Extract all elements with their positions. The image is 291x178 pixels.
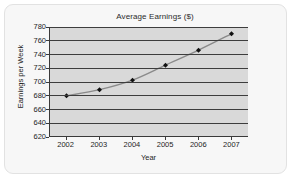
plot-area [49, 27, 248, 137]
data-point-marker [196, 48, 201, 53]
x-axis-tick-labels: 200220032004200520062007 [49, 141, 248, 153]
y-axis-tick-mark [46, 54, 49, 55]
gridline [50, 109, 248, 110]
gridline [50, 123, 248, 124]
y-axis-tick-label: 660 [20, 106, 46, 114]
x-axis-tick-mark [132, 137, 133, 140]
y-axis-tick-mark [46, 68, 49, 69]
y-axis-tick-mark [46, 109, 49, 110]
y-axis-tick-mark [46, 137, 49, 138]
y-axis-tick-label: 780 [20, 23, 46, 31]
gridline [50, 137, 248, 138]
x-axis-tick-mark [198, 137, 199, 140]
x-axis-tick-label: 2007 [211, 141, 251, 149]
y-axis-tick-label: 760 [20, 37, 46, 45]
data-point-marker [229, 31, 234, 36]
x-axis-tick-mark [66, 137, 67, 140]
chart-card: Average Earnings ($) Earnings per Week 6… [4, 4, 287, 174]
y-axis-tick-mark [46, 123, 49, 124]
x-axis-title: Year [49, 153, 248, 162]
series-path [67, 34, 232, 96]
y-axis-tick-mark [46, 82, 49, 83]
y-axis-tick-label: 620 [20, 133, 46, 141]
y-axis-tick-mark [46, 40, 49, 41]
y-axis-tick-label: 740 [20, 51, 46, 59]
x-axis-tick-mark [165, 137, 166, 140]
gridline [50, 68, 248, 69]
gridline [50, 40, 248, 41]
y-axis-tick-label: 700 [20, 78, 46, 86]
gridline [50, 82, 248, 83]
chart-title: Average Earnings ($) [35, 12, 275, 21]
y-axis-tick-mark [46, 95, 49, 96]
y-axis-tick-label: 720 [20, 64, 46, 72]
x-axis-tick-mark [231, 137, 232, 140]
gridline [50, 54, 248, 55]
y-axis-tick-labels: 620640660680700720740760780 [17, 27, 46, 137]
y-axis-tick-label: 680 [20, 92, 46, 100]
y-axis-tick-mark [46, 27, 49, 28]
line-chart: Average Earnings ($) Earnings per Week 6… [5, 5, 288, 175]
gridline [50, 27, 248, 28]
data-point-marker [97, 87, 102, 92]
gridline [50, 95, 248, 96]
x-axis-tick-mark [99, 137, 100, 140]
y-axis-tick-label: 640 [20, 119, 46, 127]
